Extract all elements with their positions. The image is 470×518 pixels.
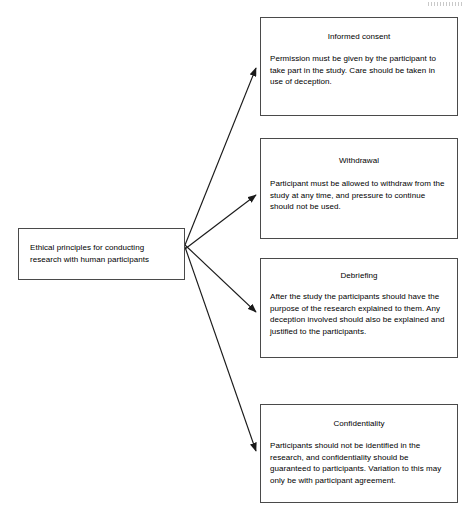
principle-node-informed-consent: Informed consent Permission must be give… bbox=[260, 17, 458, 116]
diagram-canvas: Ethical principles for conducting resear… bbox=[0, 0, 470, 518]
principle-node-confidentiality: Confidentiality Participants should not … bbox=[260, 404, 458, 503]
principle-title: Informed consent bbox=[270, 31, 448, 42]
principle-node-withdrawal: Withdrawal Participant must be allowed t… bbox=[260, 138, 458, 239]
arrow-to-confidentiality bbox=[185, 247, 256, 451]
principle-node-debriefing: Debriefing After the study the participa… bbox=[260, 258, 458, 358]
arrow-to-informed-consent bbox=[185, 68, 256, 245]
principle-body: Participants should not be identified in… bbox=[270, 440, 448, 486]
principle-title: Withdrawal bbox=[270, 155, 448, 166]
principle-body: After the study the participants should … bbox=[270, 291, 448, 337]
arrow-to-withdrawal bbox=[185, 195, 256, 249]
source-node-text: Ethical principles for conducting resear… bbox=[30, 242, 174, 265]
principle-body: Participant must be allowed to withdraw … bbox=[270, 178, 448, 213]
principle-title: Debriefing bbox=[270, 270, 448, 281]
source-node: Ethical principles for conducting resear… bbox=[18, 228, 185, 280]
principle-title: Confidentiality bbox=[270, 418, 448, 429]
principle-body: Permission must be given by the particip… bbox=[270, 53, 448, 88]
